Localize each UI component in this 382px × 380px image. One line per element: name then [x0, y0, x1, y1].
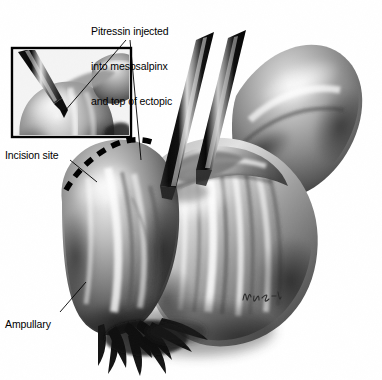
- annotation-ampullary: Ampullary: [5, 319, 51, 331]
- annotation-incision-site: Incision site: [5, 150, 59, 162]
- paper-grain: [0, 0, 382, 380]
- illustration-canvas: [0, 0, 382, 380]
- annotation-pitressin-line3: and top of ectopic: [91, 96, 172, 108]
- annotation-pitressin-line2: into mesosalpinx: [91, 61, 172, 73]
- annotation-pitressin-line1: Pitressin injected: [91, 26, 172, 38]
- medical-illustration-figure: Pitressin injected into mesosalpinx and …: [0, 0, 382, 380]
- annotation-pitressin: Pitressin injected into mesosalpinx and …: [91, 3, 172, 131]
